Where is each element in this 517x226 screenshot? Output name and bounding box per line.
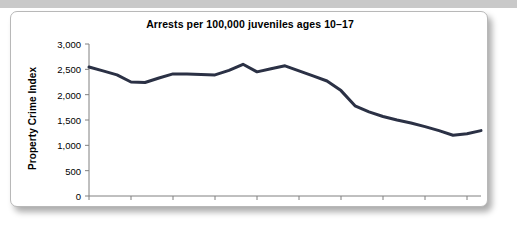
chart-card: Arrests per 100,000 juveniles ages 10–17… (10, 11, 488, 207)
plot-area (11, 12, 488, 207)
y-tick-label: 3,000 (37, 39, 81, 50)
x-tick-label: 1983 (109, 203, 153, 207)
y-tick-label: 2,000 (37, 89, 81, 100)
y-tick-label: 1,500 (37, 115, 81, 126)
x-tick-label: 1995 (277, 203, 321, 207)
x-tick-label: 2004 (403, 203, 447, 207)
y-tick-label: 500 (37, 165, 81, 176)
y-tick-label: 1,000 (37, 140, 81, 151)
x-tick-label: 1992 (235, 203, 279, 207)
x-tick-label: 1989 (193, 203, 237, 207)
y-tick-label: 2,500 (37, 64, 81, 75)
x-tick-label: 2007 (445, 203, 488, 207)
series-group (89, 64, 481, 135)
y-tick-label: 0 (37, 191, 81, 202)
x-ticks-group (89, 196, 467, 200)
x-tick-label: 1980 (67, 203, 111, 207)
x-tick-label: 1998 (319, 203, 363, 207)
x-tick-label: 1986 (151, 203, 195, 207)
page-top-band (0, 0, 517, 8)
figure-root: Arrests per 100,000 juveniles ages 10–17… (0, 0, 517, 226)
data-line-property-crime-index (89, 64, 481, 135)
x-tick-label: 2001 (361, 203, 405, 207)
